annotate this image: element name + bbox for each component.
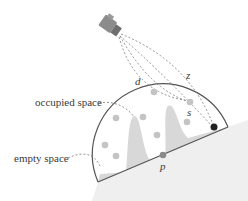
label-p: p (159, 160, 166, 172)
surface-point (211, 124, 218, 131)
diagram-canvas: occupied space empty space d z s p (0, 0, 248, 201)
label-s: s (187, 106, 191, 118)
empty-leader (68, 154, 100, 166)
label-z: z (185, 69, 191, 81)
label-d: d (135, 75, 141, 87)
label-empty-space: empty space (14, 152, 69, 164)
p-point (160, 152, 167, 159)
camera-icon (98, 12, 124, 37)
label-occupied-space: occupied space (35, 96, 102, 108)
